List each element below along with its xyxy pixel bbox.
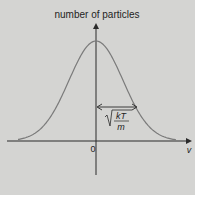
chart-plot: kT m number of particles 0 v	[0, 0, 199, 199]
x-axis-arrow-icon	[186, 138, 192, 144]
origin-label: 0	[90, 144, 95, 154]
width-label-numerator: kT	[116, 111, 128, 121]
y-axis-arrow-icon	[93, 23, 99, 29]
x-axis-label: v	[187, 145, 192, 155]
width-label-denominator: m	[117, 122, 125, 132]
distribution-curve	[18, 41, 176, 140]
y-axis-label: number of particles	[54, 9, 139, 20]
